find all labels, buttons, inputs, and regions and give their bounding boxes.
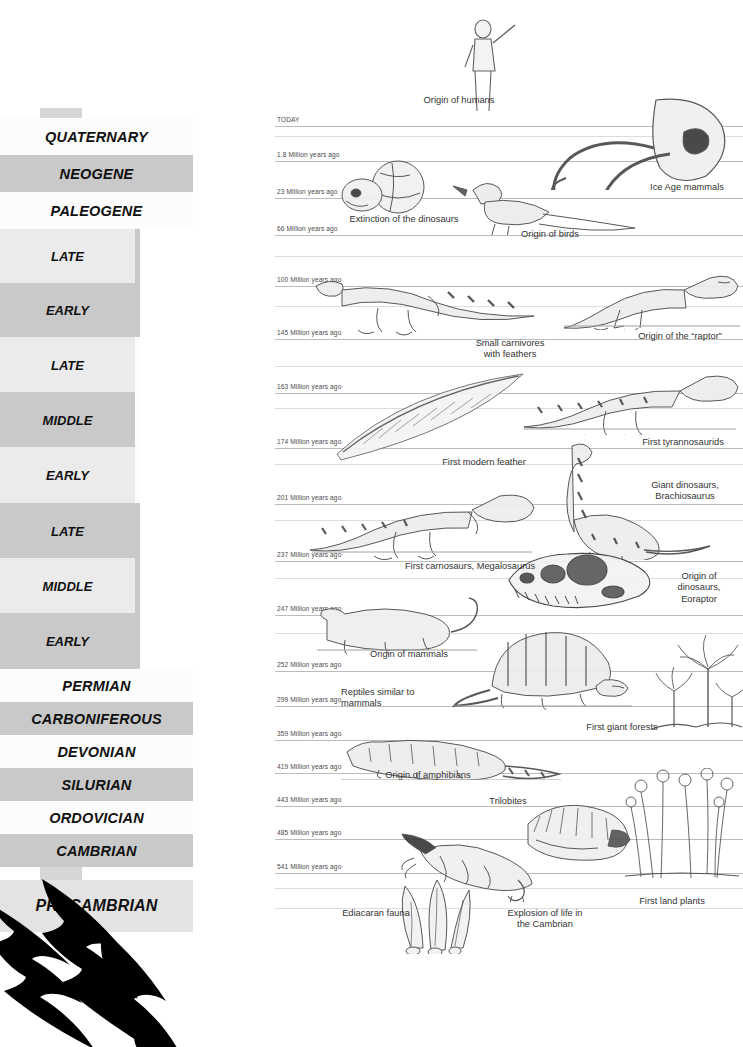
period-label: PERMIAN [0,678,193,694]
eoraptor-skull-illustration [503,548,651,610]
tick-label: 174 Million years ago [277,438,341,445]
giant-forest-trees-illustration [650,623,743,733]
annotation-origin-of-amphibians: Origin of amphibians [365,770,491,781]
epoch-row-middle-6: MIDDLE [0,558,135,613]
period-label: DEVONIAN [0,744,193,760]
epoch-label: EARLY [0,303,135,318]
annotation-origin-of-raptor: Origin of the “raptor” [620,331,740,342]
period-label: ORDOVICIAN [0,810,193,826]
epoch-row-middle-3: MIDDLE [0,392,135,447]
tick-label: 359 Million years ago [277,730,341,737]
period-row-carboniferous: CARBONIFEROUS [0,702,193,735]
epoch-row-early-7: EARLY [0,613,135,669]
feathered-carnivore-illustration [308,256,543,336]
tyrannosaurid-illustration [520,363,740,435]
period-label: SILURIAN [0,777,193,793]
period-row-paleogene: PALEOGENE [0,192,193,229]
annotation-first-giant-forests: First giant forests [566,722,678,733]
geological-time-scale-infographic: CENOZOICMESOZOICPALEOZOIC QUATERNARYNEOG… [0,0,743,1047]
period-row-precambrian: PRECAMBRIAN [0,880,193,932]
crinoids-illustration [623,768,741,880]
epoch-row-late-0: LATE [0,229,135,283]
annotation-ice-age-mammals: Ice Age mammals [633,182,741,193]
period-row-permian: PERMIAN [0,669,193,702]
feather-illustration [333,368,533,468]
annotation-trilobites: Trilobites [473,796,543,807]
epoch-label: EARLY [0,468,135,483]
epoch-label: MIDDLE [0,578,135,593]
period-row-silurian: SILURIAN [0,768,193,801]
tick-label: 66 Million years ago [277,225,338,232]
period-label: CARBONIFEROUS [0,711,193,727]
period-row-neogene: NEOGENE [0,155,193,192]
epoch-row-early-1: EARLY [0,283,135,337]
epoch-label: LATE [0,357,135,372]
period-row-quaternary: QUATERNARY [0,118,193,155]
tick-label: 541 Million years ago [277,863,341,870]
annotation-origin-of-birds: Origin of birds [500,229,600,240]
epoch-label: LATE [0,249,135,264]
annotation-small-carnivores: Small carnivores with feathers [455,338,565,361]
period-row-cambrian: CAMBRIAN [0,834,193,867]
tick-label: 1.8 Million years ago [277,151,340,158]
annotation-origin-of-mammals: Origin of mammals [350,649,468,660]
tick-label: 485 Million years ago [277,829,341,836]
tick-label: 252 Million years ago [277,661,341,668]
period-row-devonian: DEVONIAN [0,735,193,768]
tick-label: 443 Million years ago [277,796,341,803]
annotation-first-tyrannosaurids: First tyrannosaurids [625,437,741,448]
primate-skull-globe-illustration [336,159,432,217]
epoch-label: MIDDLE [0,412,135,427]
archaeopteryx-bird-illustration [443,172,655,235]
annotation-extinction-dinosaurs: Extinction of the dinosaurs [329,214,479,225]
raptor-dinosaur-illustration [560,258,740,330]
annotation-explosion-of-life: Explosion of life in the Cambrian [489,908,601,931]
annotation-origin-of-dinosaurs: Origin of dinosaurs, Eoraptor [656,571,742,605]
epoch-row-early-4: EARLY [0,447,135,503]
period-label: QUATERNARY [0,129,193,145]
epoch-row-late-5: LATE [0,503,135,558]
annotation-first-modern-feather: First modern feather [420,457,548,468]
period-label: PRECAMBRIAN [0,897,193,915]
dimetrodon-illustration [452,628,637,710]
annotation-origin-of-humans: Origin of humans [399,95,519,106]
annotation-first-carnosaurs: First carnosaurs, Megalosaurus [380,561,560,572]
tick-label: TODAY [277,116,300,123]
epoch-label: LATE [0,523,135,538]
tick-label: 299 Million years ago [277,696,341,703]
epoch-row-late-2: LATE [0,337,135,392]
annotation-first-land-plants: First land plants [620,896,724,907]
period-row-ordovician: ORDOVICIAN [0,801,193,834]
period-label: NEOGENE [0,166,193,182]
period-label: CAMBRIAN [0,843,193,859]
annotation-ediacaran-fauna: Ediacaran fauna [323,908,429,919]
period-label: PALEOGENE [0,203,193,219]
annotation-reptiles-similar: Reptiles similar to mammals [341,687,449,710]
epoch-label: EARLY [0,634,135,649]
tick-label: 23 Million years ago [277,188,338,195]
annotation-giant-dinosaurs: Giant dinosaurs, Brachiosaurus [630,480,740,503]
tick-label: 163 Million years ago [277,383,341,390]
tick-label: 419 Million years ago [277,763,341,770]
